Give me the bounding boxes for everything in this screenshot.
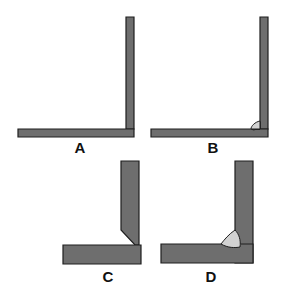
panel-d-label: D [206, 268, 217, 285]
weld-joint-diagram: A B C D [0, 0, 283, 293]
panel-b-horizontal-plate [151, 129, 268, 137]
panel-d-fillet-weld [221, 230, 240, 248]
panel-a-horizontal-plate [18, 129, 134, 137]
panel-c-horizontal-plate [63, 245, 141, 264]
panel-b: B [151, 17, 268, 156]
panel-b-vertical-plate [260, 17, 268, 129]
panel-a: A [18, 17, 134, 156]
panel-d: D [161, 161, 253, 285]
panel-c: C [63, 161, 141, 285]
panel-b-label: B [208, 139, 219, 156]
panel-c-vertical-plate-beveled [121, 161, 139, 245]
panel-a-vertical-plate [126, 17, 134, 129]
panel-a-label: A [75, 139, 86, 156]
panel-b-weld-bead [251, 121, 260, 129]
panel-c-label: C [103, 268, 114, 285]
